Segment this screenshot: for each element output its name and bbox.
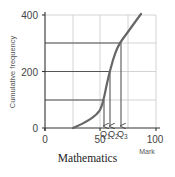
chart-title: Mathematics — [0, 152, 175, 164]
y-tick-0: 0 — [32, 123, 38, 134]
cumulative-frequency-chart: 400 200 0 Cumulative frequency 0 50 100 … — [0, 0, 175, 177]
y-tick-400: 400 — [21, 10, 38, 21]
quartile-guides — [45, 43, 121, 126]
q3-label: Q3 — [117, 129, 128, 140]
x-tick-100: 100 — [147, 134, 164, 145]
quartile-labels: Q1 Q2 Q3 — [100, 129, 128, 140]
y-axis-label: Cumulative frequency — [8, 35, 17, 108]
x-tick-0: 0 — [42, 134, 48, 145]
y-tick-200: 200 — [21, 67, 38, 78]
